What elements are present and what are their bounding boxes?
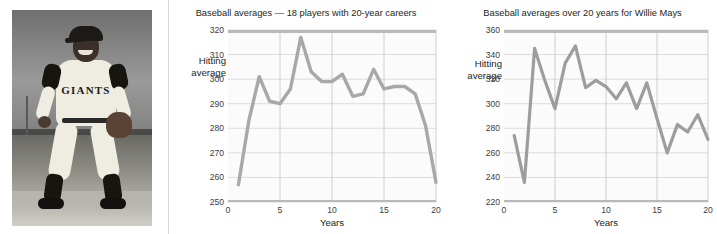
- x-tick-label: 20: [431, 205, 441, 215]
- x-tick-label: 15: [379, 205, 389, 215]
- plot-top-border: [228, 30, 436, 33]
- y-tick-label: 310: [210, 50, 224, 60]
- photo-panel: Bettmann/Corbis: [0, 0, 163, 234]
- chart-title: Baseball averages — 18 players with 20-y…: [170, 8, 442, 18]
- x-tick-label: 0: [226, 205, 231, 215]
- baseball-glove: [106, 112, 132, 138]
- y-tick-label: 280: [210, 123, 224, 133]
- x-tick-label: 5: [553, 205, 558, 215]
- y-tick-label: 360: [486, 25, 500, 35]
- chart-title: Baseball averages over 20 years for Will…: [448, 8, 717, 18]
- x-tick-label: 0: [502, 205, 507, 215]
- y-tick-label: 280: [486, 123, 500, 133]
- data-line-series: [514, 46, 708, 182]
- y-tick-label: 340: [486, 50, 500, 60]
- chart-block-league-average: Baseball averages — 18 players with 20-y…: [170, 0, 442, 234]
- chart-block-willie-mays: Baseball averages over 20 years for Will…: [448, 0, 717, 234]
- y-tick-label: 300: [210, 74, 224, 84]
- chart-svg: [504, 30, 708, 202]
- photo-player-figure: GIANTS: [12, 10, 152, 226]
- y-tick-label: 220: [486, 197, 500, 207]
- x-tick-label: 10: [327, 205, 337, 215]
- x-tick-label: 10: [601, 205, 611, 215]
- y-tick-label: 260: [210, 172, 224, 182]
- x-axis-line: [504, 200, 708, 202]
- data-line-series: [238, 37, 436, 184]
- y-tick-label: 320: [210, 25, 224, 35]
- plot-area: 250260270280290300310320 05101520 Years: [228, 30, 436, 202]
- plot-top-border: [504, 30, 708, 33]
- x-axis-label: Years: [228, 217, 436, 228]
- x-tick-label: 5: [278, 205, 283, 215]
- x-axis-label: Years: [504, 217, 708, 228]
- x-tick-label: 15: [652, 205, 662, 215]
- plot-area: 220240260280300320340360 05101520 Years: [504, 30, 708, 202]
- y-tick-label: 320: [486, 74, 500, 84]
- jersey-team-name: GIANTS: [56, 84, 116, 96]
- y-tick-label: 290: [210, 99, 224, 109]
- y-tick-label: 240: [486, 172, 500, 182]
- player-belt: [62, 118, 110, 123]
- y-tick-label: 260: [486, 148, 500, 158]
- x-tick-label: 20: [703, 205, 713, 215]
- chart-svg: [228, 30, 436, 202]
- y-tick-label: 300: [486, 99, 500, 109]
- player-shoe-right: [100, 198, 126, 209]
- player-photograph: GIANTS: [12, 10, 152, 226]
- player-hand-left: [38, 116, 51, 128]
- panel-divider: [168, 0, 169, 234]
- y-tick-label: 250: [210, 197, 224, 207]
- player-shoe-left: [38, 198, 64, 209]
- y-tick-label: 270: [210, 148, 224, 158]
- player-leg-left: [47, 121, 79, 182]
- figure-container: Bettmann/Corbis: [0, 0, 717, 234]
- x-axis-line: [228, 200, 436, 202]
